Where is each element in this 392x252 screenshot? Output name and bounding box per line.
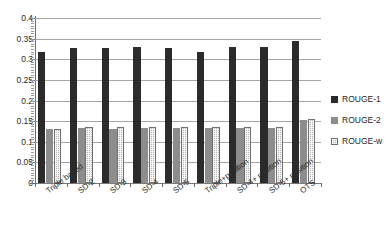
bar-group <box>194 18 226 183</box>
y-axis-minor-tick <box>31 90 34 91</box>
legend-swatch-icon <box>331 138 338 145</box>
y-axis-minor-tick <box>31 103 34 104</box>
y-axis-minor-tick <box>31 131 34 132</box>
y-axis-minor-tick <box>31 31 34 32</box>
y-axis-minor-tick <box>31 149 34 150</box>
bar-rouge-w <box>212 127 219 183</box>
x-axis-tick-mark <box>321 183 322 187</box>
y-axis-minor-tick <box>31 77 34 78</box>
y-axis-minor-tick <box>31 137 34 138</box>
bar-rouge-w <box>117 127 124 183</box>
x-axis-tick-mark <box>289 183 290 187</box>
y-axis-minor-tick <box>31 46 34 47</box>
y-axis-minor-tick <box>31 33 34 34</box>
y-axis-minor-tick <box>31 36 34 37</box>
y-axis-minor-tick <box>31 64 34 65</box>
x-axis-tick-mark <box>162 183 163 187</box>
y-axis-minor-tick <box>31 59 34 60</box>
y-axis-minor-tick <box>31 155 34 156</box>
y-axis-minor-tick <box>31 147 34 148</box>
bar-rouge-1 <box>292 41 299 183</box>
x-axis-tick-mark <box>194 183 195 187</box>
bar-rouge-1 <box>165 48 172 183</box>
y-axis-minor-tick <box>31 139 34 140</box>
y-axis-minor-tick <box>31 23 34 24</box>
y-axis-minor-tick <box>31 111 34 112</box>
y-axis-minor-tick <box>31 119 34 120</box>
x-axis-tick-mark <box>257 183 258 187</box>
bar-rouge-2 <box>205 128 212 183</box>
bar-rouge-1 <box>133 47 140 183</box>
legend-swatch-icon <box>331 117 338 124</box>
bar-rouge-2 <box>109 129 116 183</box>
legend-item-label: ROUGE-1 <box>342 95 381 104</box>
y-axis-minor-tick <box>31 72 34 73</box>
y-axis-minor-tick <box>31 18 34 19</box>
y-axis-minor-tick <box>31 80 34 81</box>
bar-group <box>67 18 99 183</box>
y-axis-minor-tick <box>31 88 34 89</box>
y-axis-tick-labels: 00.050.10.150.20.250.30.350.4 <box>0 0 33 252</box>
legend-item-rouge-2[interactable]: ROUGE-2 <box>331 116 391 125</box>
bar-group <box>162 18 194 183</box>
y-axis-minor-tick <box>31 126 34 127</box>
y-axis-minor-tick <box>31 116 34 117</box>
legend-item-rouge-w[interactable]: ROUGE-w <box>331 137 391 146</box>
y-axis-minor-tick <box>31 178 34 179</box>
y-axis-minor-tick <box>31 28 34 29</box>
bar-rouge-1 <box>260 47 267 183</box>
y-axis-minor-tick <box>31 44 34 45</box>
x-axis-tick-mark <box>99 183 100 187</box>
y-axis-minor-tick <box>31 49 34 50</box>
bar-rouge-1 <box>197 52 204 183</box>
bar-rouge-1 <box>102 48 109 183</box>
y-axis-minor-tick <box>31 134 34 135</box>
bar-rouge-1 <box>229 47 236 183</box>
x-axis-tick-mark <box>226 183 227 187</box>
bar-rouge-w <box>308 119 315 183</box>
y-axis-minor-tick <box>31 173 34 174</box>
y-axis-minor-tick <box>31 144 34 145</box>
legend-item-label: ROUGE-w <box>342 137 382 146</box>
y-axis-minor-tick <box>31 180 34 181</box>
y-axis-minor-tick <box>31 98 34 99</box>
y-axis-minor-tick <box>31 70 34 71</box>
y-axis-minor-tick <box>31 54 34 55</box>
y-axis-minor-tick <box>31 57 34 58</box>
bar-rouge-2 <box>268 128 275 183</box>
y-axis-minor-tick <box>31 106 34 107</box>
y-axis-minor-tick <box>31 82 34 83</box>
bar-rouge-1 <box>38 52 45 183</box>
legend-swatch-icon <box>331 96 338 103</box>
y-axis-minor-tick <box>31 175 34 176</box>
y-axis-minor-tick <box>31 75 34 76</box>
y-axis-minor-tick <box>31 160 34 161</box>
y-axis-minor-tick <box>31 165 34 166</box>
y-axis-minor-tick <box>31 157 34 158</box>
x-axis-tick-mark <box>67 183 68 187</box>
bar-rouge-w <box>149 127 156 184</box>
bar-group <box>130 18 162 183</box>
y-axis-minor-tick <box>31 93 34 94</box>
chart-legend: ROUGE-1ROUGE-2ROUGE-w <box>331 95 391 158</box>
bar-rouge-2 <box>78 128 85 183</box>
y-axis-minor-tick <box>31 152 34 153</box>
y-axis-minor-tick <box>31 26 34 27</box>
y-axis-minor-tick <box>31 142 34 143</box>
y-axis-minor-tick <box>31 41 34 42</box>
y-axis-minor-tick <box>31 168 34 169</box>
y-axis-minor-tick <box>31 21 34 22</box>
y-axis-minor-tick <box>31 170 34 171</box>
y-axis-minor-tick <box>31 52 34 53</box>
legend-item-rouge-1[interactable]: ROUGE-1 <box>331 95 391 104</box>
y-axis-minor-tick <box>31 113 34 114</box>
rouge-score-bar-chart: 00.050.10.150.20.250.30.350.4 ROUGE-1ROU… <box>0 0 392 252</box>
bar-rouge-2 <box>173 128 180 183</box>
bar-rouge-w <box>181 127 188 183</box>
y-axis-minor-tick <box>31 101 34 102</box>
x-axis-tick-mark <box>35 183 36 187</box>
y-axis-minor-tick <box>31 62 34 63</box>
y-axis-minor-tick <box>31 95 34 96</box>
bar-rouge-2 <box>46 129 53 183</box>
bar-rouge-w <box>244 127 251 184</box>
